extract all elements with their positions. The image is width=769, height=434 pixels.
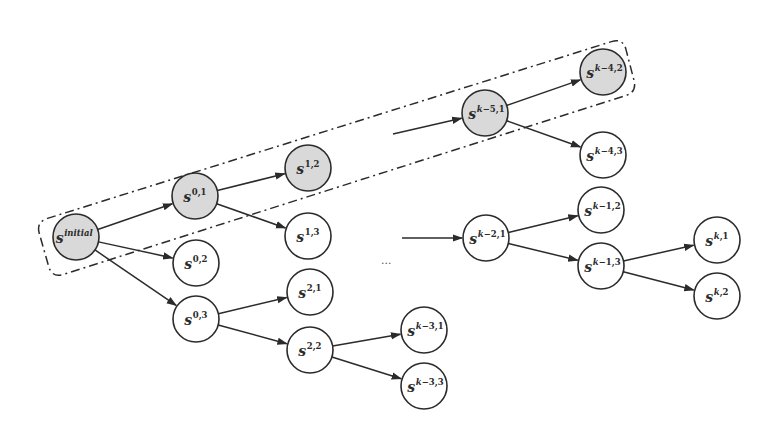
node-label-base: s [407,323,415,339]
state-node: s2,2 [287,327,333,373]
node-label-superscript: k−2,1 [478,229,506,240]
node-label-superscript: k−4,3 [595,146,623,157]
edge-arrow [507,121,581,147]
node-label-base: s [705,233,713,249]
edge-arrow [98,242,172,258]
edge-arrow [217,174,284,191]
node-label-base: s [56,230,64,246]
state-node: s0,3 [173,296,219,342]
node-label-base: s [183,189,191,205]
state-node: sk−4,2 [580,49,626,95]
state-node: sk−1,3 [578,243,624,289]
edge-arrow [218,325,287,344]
ellipsis-text: ... [381,254,392,267]
state-node: sk−1,2 [578,187,624,233]
state-node: s1,3 [285,213,331,259]
node-label-base: s [298,343,306,359]
node-label-superscript: k−5,1 [477,104,505,115]
edge-arrow [218,298,286,314]
highlighted-path-box [39,41,635,276]
node-label-superscript: k−3,3 [416,377,444,388]
node-label-base: s [184,256,192,272]
node-label-superscript: k−1,2 [593,201,621,212]
edge-arrow [508,216,577,233]
node-label-superscript: k,2 [714,287,729,298]
node-label-base: s [468,106,476,122]
node-label-base: s [705,289,713,305]
edge-arrow [333,334,401,346]
state-node: sk−2,1 [463,215,509,261]
state-node: sk−3,3 [401,363,447,409]
state-node: sk−5,1 [462,90,508,136]
edge-arrow [623,245,693,261]
node-label-base: s [584,259,592,275]
node-label-base: s [407,379,415,395]
node-label-superscript: k−1,3 [593,257,621,268]
incoming-arrow [393,118,462,134]
state-node: sk−3,1 [401,307,447,353]
node-label-superscript: 0,3 [193,310,208,321]
node-label-superscript: 0,2 [193,254,208,265]
edge-arrow [507,80,581,106]
node-label-superscript: 2,1 [307,283,322,294]
node-label-superscript: initial [64,228,93,238]
node-label-superscript: 2,2 [307,341,322,352]
nodes: sinitials0,1s0,2s0,3s1,2s1,3s2,1s2,2sk−3… [53,49,740,409]
state-node: sk−4,3 [580,132,626,178]
node-label-base: s [296,229,304,245]
edge-arrow [332,357,401,379]
search-tree-diagram: sinitials0,1s0,2s0,3s1,2s1,3s2,1s2,2sk−3… [0,0,769,434]
state-node: s1,2 [285,145,331,191]
node-label-superscript: k−4,2 [595,63,623,74]
dash-dot-box-outline [39,41,635,276]
state-node: sinitial [53,214,99,260]
node-label-base: s [184,312,192,328]
node-label-base: s [469,231,477,247]
state-node: s0,2 [173,240,219,286]
node-label-base: s [586,148,594,164]
state-node: sk,2 [694,273,740,319]
node-label-superscript: k,1 [714,231,729,242]
node-label-base: s [586,65,594,81]
edge-arrow [623,272,693,290]
edge-arrow [98,204,173,230]
state-node: s2,1 [287,269,333,315]
node-label-superscript: k−3,1 [416,321,444,332]
node-label-superscript: 1,3 [305,227,320,238]
node-label-base: s [298,285,306,301]
node-label-base: s [584,203,592,219]
state-node: sk,1 [694,217,740,263]
state-node: s0,1 [172,173,218,219]
edge-arrow [95,250,176,305]
edge-arrow [508,243,577,260]
node-label-superscript: 1,2 [305,159,320,170]
node-label-base: s [296,161,304,177]
node-label-superscript: 0,1 [192,187,207,198]
